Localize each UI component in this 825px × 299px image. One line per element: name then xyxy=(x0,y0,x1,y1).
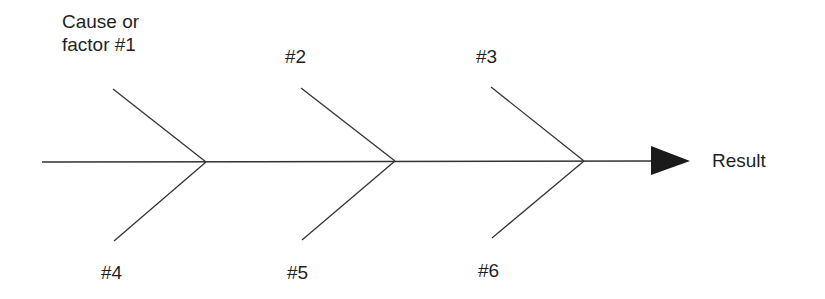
bone-6 xyxy=(492,161,584,238)
arrowhead-icon xyxy=(651,146,690,175)
result-label: Result xyxy=(712,149,766,172)
spine-line xyxy=(42,161,652,162)
cause-1-line1: Cause or xyxy=(62,10,139,33)
bone-4 xyxy=(114,162,206,241)
bone-1 xyxy=(113,89,206,162)
cause-5-label: #5 xyxy=(287,261,308,284)
fishbone-diagram: Cause or factor #1 #2 #3 #4 #5 #6 Result xyxy=(0,0,825,299)
bone-3 xyxy=(491,87,584,161)
cause-3-label: #3 xyxy=(476,45,497,68)
cause-1-line2: factor #1 xyxy=(62,33,139,56)
cause-1-label: Cause or factor #1 xyxy=(62,10,139,56)
cause-4-label: #4 xyxy=(101,261,122,284)
bone-2 xyxy=(301,88,395,161)
cause-6-label: #6 xyxy=(478,259,499,282)
cause-2-label: #2 xyxy=(285,45,306,68)
bone-5 xyxy=(302,161,395,240)
